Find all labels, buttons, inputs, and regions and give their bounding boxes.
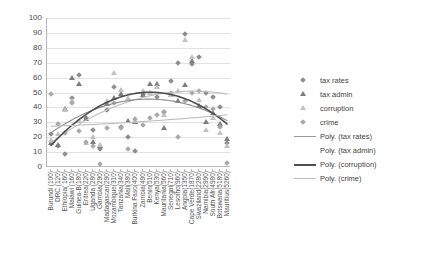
- legend-entry-label: Poly. (tax rates): [320, 132, 426, 141]
- legend-entry-label: tax rates: [320, 76, 426, 85]
- x-axis-tick: Kenya(530): [152, 169, 159, 269]
- chart-legend: tax ratestax admincorruptioncrimePoly. (…: [294, 73, 426, 185]
- x-axis-tick: Mauritius(5260): [223, 169, 230, 269]
- x-axis-tick: Mauritania(560): [159, 169, 166, 269]
- x-axis-tick-label: Angola(1350): [181, 171, 188, 210]
- legend-entry-label: Poly. (tax admin): [320, 146, 426, 155]
- legend-entry[interactable]: Poly. (tax rates): [294, 129, 426, 143]
- x-axis-tick: Burundi (100): [46, 169, 53, 269]
- trendline-swatch-icon: [294, 172, 316, 184]
- triangle-marker-icon: [294, 88, 316, 100]
- x-axis-tick-label: Lesotho(960): [173, 171, 180, 209]
- y-axis-tick-label: 50: [2, 89, 42, 97]
- x-axis-tick: Senegal(710): [166, 169, 173, 269]
- x-axis-tick: Uganda (280): [89, 169, 96, 269]
- legend-entry[interactable]: Poly. (corruption): [294, 157, 426, 171]
- legend-entry-label: crime: [320, 118, 426, 127]
- legend-entry[interactable]: tax admin: [294, 87, 426, 101]
- y-axis-tick-label: 70: [2, 59, 42, 67]
- plot-area: [46, 18, 230, 167]
- trendlines-layer: [47, 18, 231, 167]
- x-axis-tick-label: Senegal(710): [166, 171, 173, 210]
- x-axis-tick: Malawi (160): [67, 169, 74, 269]
- y-axis-tick-label: 100: [2, 14, 42, 22]
- legend-entry-label: Poly. (crime): [320, 174, 426, 183]
- y-axis-tick-label: 90: [2, 29, 42, 37]
- y-axis-tick-label: 0: [2, 163, 42, 171]
- x-axis-tick-label: Burundi (100): [46, 171, 53, 210]
- x-axis-tick: DRC (120): [53, 169, 60, 269]
- x-axis-tick: Lesotho(960): [173, 169, 180, 269]
- x-axis-tick-label: Uganda (280): [89, 171, 96, 211]
- y-axis-tick-label: 80: [2, 44, 42, 52]
- y-axis-tick-label: 30: [2, 118, 42, 126]
- y-axis-labels: 1009080706050403020100: [0, 18, 42, 168]
- x-axis-tick-label: DRC (120): [53, 171, 60, 202]
- legend-entry[interactable]: Poly. (tax admin): [294, 143, 426, 157]
- x-axis-tick: Angola(1350): [181, 169, 188, 269]
- x-axis-tick-label: Zambia(490): [138, 171, 145, 208]
- x-axis-tick-label: Mauritius(5260): [223, 171, 230, 216]
- diamond-marker-icon: [294, 74, 316, 86]
- y-axis-tick-label: 40: [2, 103, 42, 111]
- x-axis-labels: Burundi (100)DRC (120)Ethiopia( 160)Mala…: [46, 169, 230, 271]
- y-axis-tick-label: 10: [2, 148, 42, 156]
- legend-entry[interactable]: Poly. (crime): [294, 171, 426, 185]
- x-axis-tick: Benin(510): [145, 169, 152, 269]
- y-axis-tick-label: 20: [2, 133, 42, 141]
- x-axis-tick-label: Cape Verde(1870): [188, 171, 195, 224]
- x-axis-tick: Guinea-B(180): [74, 169, 81, 269]
- legend-entry-label: corruption: [320, 104, 426, 113]
- scatter-chart: 1009080706050403020100 Burundi (100)DRC …: [0, 0, 428, 271]
- trendline-corruption: [51, 92, 228, 146]
- triangle-light-marker-icon: [294, 102, 316, 114]
- x-axis-tick: Cape Verde(1870): [188, 169, 195, 269]
- x-axis-tick: Zambia(490): [138, 169, 145, 269]
- trendline-thick-swatch-icon: [294, 158, 316, 170]
- x-axis-tick: Eritrea(220): [81, 169, 88, 269]
- x-axis-tick-label: Kenya(530): [152, 171, 159, 205]
- x-axis-tick-label: Burkina Faso(400): [131, 171, 138, 224]
- x-axis-tick-label: Ethiopia( 160): [60, 171, 67, 211]
- x-axis-tick: Ethiopia( 160): [60, 169, 67, 269]
- y-axis-tick-label: 60: [2, 74, 42, 82]
- x-axis-tick-label: Mauritania(560): [159, 171, 166, 217]
- diamond-light-marker-icon: [294, 116, 316, 128]
- x-axis-tick-label: Guinea-B(180): [74, 171, 81, 214]
- x-axis-tick: Burkina Faso(400): [131, 169, 138, 269]
- legend-entry-label: tax admin: [320, 90, 426, 99]
- x-axis-tick: Gambia(290): [96, 169, 103, 269]
- trendline-tax-admin: [51, 99, 228, 133]
- legend-entry-label: Poly. (corruption): [320, 160, 426, 169]
- x-axis-tick-label: Eritrea(220): [81, 171, 88, 205]
- legend-entry[interactable]: tax rates: [294, 73, 426, 87]
- x-axis-tick-label: Benin(510): [145, 171, 152, 203]
- legend-entry[interactable]: crime: [294, 115, 426, 129]
- trendline-swatch-icon: [294, 130, 316, 142]
- x-axis-tick-label: Malawi (160): [67, 171, 74, 208]
- x-axis-tick-label: Gambia(290): [96, 171, 103, 209]
- trendline-swatch-icon: [294, 144, 316, 156]
- legend-entry[interactable]: corruption: [294, 101, 426, 115]
